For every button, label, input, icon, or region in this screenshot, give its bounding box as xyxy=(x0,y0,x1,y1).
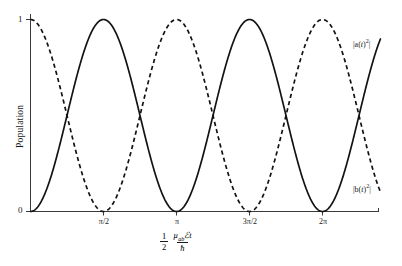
rabi-oscillation-figure: Population 1 0 π/2 π 3π/2 2π 1 2 µabℰt ħ… xyxy=(0,0,402,266)
y-axis-title: Population xyxy=(16,105,26,148)
series-label-a-base: |a( xyxy=(353,40,361,49)
x-tick-label-2pi: 2π xyxy=(313,218,333,226)
series-label-b: |b(t)2| xyxy=(353,183,371,194)
half-denominator: 2 xyxy=(160,241,168,251)
x-axis-title-ratio: µabℰt ħ xyxy=(170,231,194,252)
x-axis-title-half: 1 2 xyxy=(160,232,168,251)
series-label-b-tail: | xyxy=(369,185,371,194)
x-tick-label-pi-over-2: π/2 xyxy=(94,218,114,226)
ratio-denominator: ħ xyxy=(177,242,187,252)
plot-canvas xyxy=(0,0,402,266)
series-curve-b xyxy=(31,20,381,212)
half-numerator: 1 xyxy=(160,232,168,241)
y-tick-label-1: 1 xyxy=(18,15,23,24)
y-tick-label-0: 0 xyxy=(18,206,23,215)
x-tick-label-pi: π xyxy=(169,218,185,226)
series-label-a-tail: | xyxy=(369,40,371,49)
x-axis-title: 1 2 µabℰt ħ xyxy=(160,231,195,252)
ratio-numerator: µabℰt xyxy=(170,231,194,242)
series-label-a: |a(t)2| xyxy=(353,38,370,49)
hbar-symbol: ħ xyxy=(180,243,184,253)
x-tick-label-3pi-over-2: 3π/2 xyxy=(238,218,262,226)
time-symbol: t xyxy=(189,230,191,240)
series-curve-a xyxy=(31,20,381,212)
